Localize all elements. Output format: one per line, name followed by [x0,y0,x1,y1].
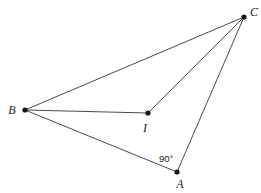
segment-BI [25,110,148,113]
geometry-figure: B C A I 90° [0,0,261,193]
segment-BC [25,17,244,110]
segment-AC [177,17,244,172]
vertex-label-A: A [175,177,184,191]
angle-label-90-at-A: 90° [159,153,174,164]
vertex-dot-B [22,107,27,112]
geometry-diagram-canvas: B C A I 90° [0,0,261,193]
segment-BA [25,110,177,172]
vertex-dot-A [174,169,179,174]
segment-IC [148,17,244,113]
vertex-dot-C [241,14,246,19]
vertex-label-B: B [8,103,16,117]
vertex-label-I: I [142,121,148,135]
vertex-label-C: C [250,5,259,19]
vertex-dot-I [145,110,150,115]
